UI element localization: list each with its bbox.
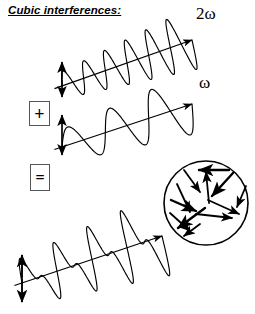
- waveform-sum: [19, 211, 170, 299]
- axis-arrow-second-harmonic: [54, 40, 192, 89]
- orientation-arrow: [237, 186, 246, 207]
- orientation-arrow: [212, 173, 233, 196]
- waveform-fundamental: [62, 89, 193, 154]
- orientation-arrow: [184, 170, 200, 192]
- orientation-arrow: [171, 200, 196, 211]
- panel-sum: [14, 211, 169, 302]
- random-arrow-circle: [164, 161, 248, 245]
- orientation-arrow: [184, 224, 200, 236]
- orientation-arrow: [206, 172, 209, 203]
- orientation-arrow: [196, 214, 232, 218]
- orientation-arrow: [208, 200, 239, 214]
- random-orientation-arrows: [170, 170, 246, 236]
- panel-second-harmonic: [54, 19, 197, 97]
- figure-canvas: Cubic interferences: 2ω ω + =: [0, 0, 255, 314]
- axis-arrow-fundamental: [54, 104, 192, 150]
- waveform-layer: [0, 0, 255, 314]
- panel-fundamental: [54, 89, 193, 155]
- waveform-second-harmonic: [62, 19, 197, 94]
